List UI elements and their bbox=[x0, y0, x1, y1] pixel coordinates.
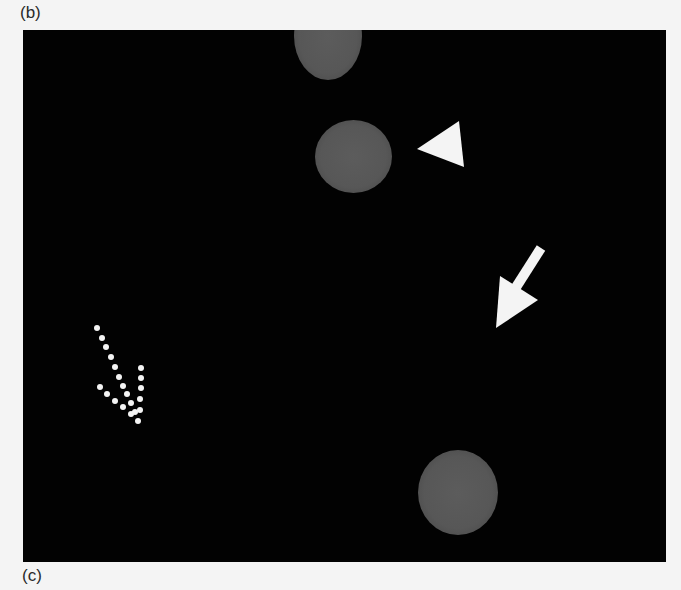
micrograph-panel bbox=[23, 30, 666, 562]
arrowhead-marker-icon bbox=[417, 121, 464, 167]
panel-label-c: (c) bbox=[22, 567, 42, 584]
dotted-arrow-icon bbox=[94, 325, 144, 424]
annotation-overlay bbox=[23, 30, 666, 562]
panel-label-b: (b) bbox=[20, 4, 41, 21]
solid-arrow-icon bbox=[496, 248, 541, 328]
